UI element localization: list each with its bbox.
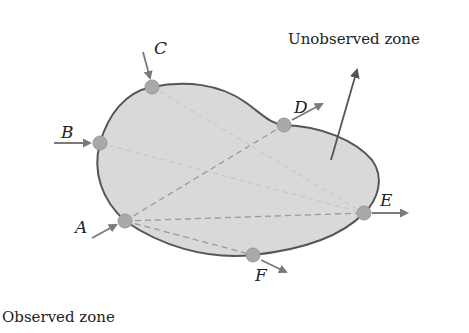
observed-zone-label: Observed zone [2,308,115,326]
label-b: B [60,122,74,142]
label-e: E [379,190,393,210]
point-c [145,80,159,94]
point-f [246,248,260,262]
label-c: C [154,38,167,58]
point-e [357,206,371,220]
point-a [118,214,132,228]
unobserved-zone-label: Unobserved zone [288,30,420,48]
diagram-canvas: C B A D E F Unobserved zone Observed zon… [0,0,469,333]
arrow-into-a [92,225,116,238]
point-d [277,118,291,132]
label-f: F [254,265,268,285]
point-b [93,136,107,150]
label-d: D [293,97,308,117]
arrow-into-c [143,52,150,78]
observed-region [97,84,379,256]
label-a: A [73,217,87,237]
